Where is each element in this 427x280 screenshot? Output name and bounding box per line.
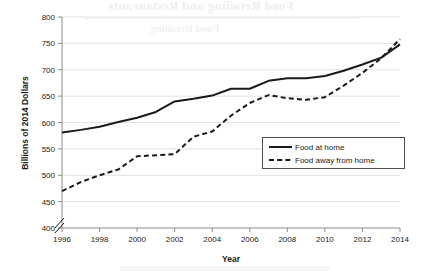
x-tick-label: 2008 <box>278 235 296 244</box>
y-axis-ticks: 400450500550600650700750800 <box>42 13 62 233</box>
y-tick-label: 600 <box>42 119 56 128</box>
x-tick-label: 2004 <box>203 235 221 244</box>
x-tick-label: 1998 <box>91 235 109 244</box>
legend-label-food-away-from-home: Food away from home <box>295 156 375 165</box>
x-tick-label: 2002 <box>166 235 184 244</box>
y-tick-label: 400 <box>42 224 56 233</box>
x-tick-label: 2006 <box>241 235 259 244</box>
axis-break-mark-upper <box>55 218 64 228</box>
x-tick-label: 2014 <box>391 235 409 244</box>
series-line-food-at-home <box>62 44 400 132</box>
y-tick-label: 750 <box>42 39 56 48</box>
x-tick-label: 2010 <box>316 235 334 244</box>
legend-label-food-at-home: Food at home <box>295 143 345 152</box>
y-tick-label: 800 <box>42 13 56 22</box>
chart-legend: Food at home Food away from home <box>263 138 405 169</box>
x-tick-label: 2012 <box>354 235 372 244</box>
y-tick-label: 700 <box>42 66 56 75</box>
x-tick-label: 2000 <box>128 235 146 244</box>
line-chart: 400450500550600650700750800 199619982000… <box>0 0 427 280</box>
x-axis-ticks: 1996199820002002200420062008201020122014 <box>53 228 409 244</box>
y-tick-label: 650 <box>42 92 56 101</box>
x-tick-label: 1996 <box>53 235 71 244</box>
y-tick-label: 450 <box>42 198 56 207</box>
x-axis-title: Year <box>222 254 241 264</box>
y-tick-label: 500 <box>42 171 56 180</box>
y-axis-title: Billions of 2014 Dollars <box>20 76 30 170</box>
y-tick-label: 550 <box>42 145 56 154</box>
gridlines <box>62 17 400 202</box>
chart-figure: Food Retailing and Restaurants Food Reta… <box>0 0 427 280</box>
